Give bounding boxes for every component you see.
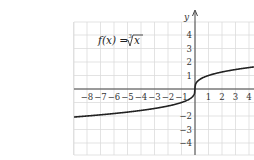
- svg-text:−6: −6: [108, 92, 121, 102]
- svg-text:3: 3: [233, 92, 238, 102]
- svg-text:1: 1: [187, 71, 192, 81]
- svg-text:x: x: [134, 34, 140, 46]
- svg-text:−7: −7: [94, 92, 107, 102]
- svg-text:−3: −3: [148, 92, 161, 102]
- svg-text:−5: −5: [121, 92, 134, 102]
- cube-root-chart: −8−7−6−5−4−3−2−112344321−2−3−4 y f(x) = …: [0, 0, 254, 160]
- svg-text:4: 4: [246, 92, 251, 102]
- y-axis-label: y: [183, 12, 190, 22]
- svg-text:−3: −3: [179, 125, 192, 135]
- svg-text:3: 3: [187, 44, 192, 54]
- axes: [74, 10, 254, 155]
- svg-text:2: 2: [219, 92, 224, 102]
- svg-text:2: 2: [187, 57, 192, 67]
- svg-text:−4: −4: [179, 138, 192, 148]
- svg-text:−1: −1: [175, 92, 188, 102]
- svg-text:−4: −4: [135, 92, 148, 102]
- svg-text:−2: −2: [179, 111, 192, 121]
- svg-text:1: 1: [206, 92, 211, 102]
- function-title: f(x) = 3 x: [97, 33, 143, 47]
- svg-text:−8: −8: [81, 92, 94, 102]
- svg-text:−2: −2: [162, 92, 175, 102]
- svg-text:f(x) =: f(x) =: [97, 34, 128, 46]
- svg-text:4: 4: [187, 30, 192, 40]
